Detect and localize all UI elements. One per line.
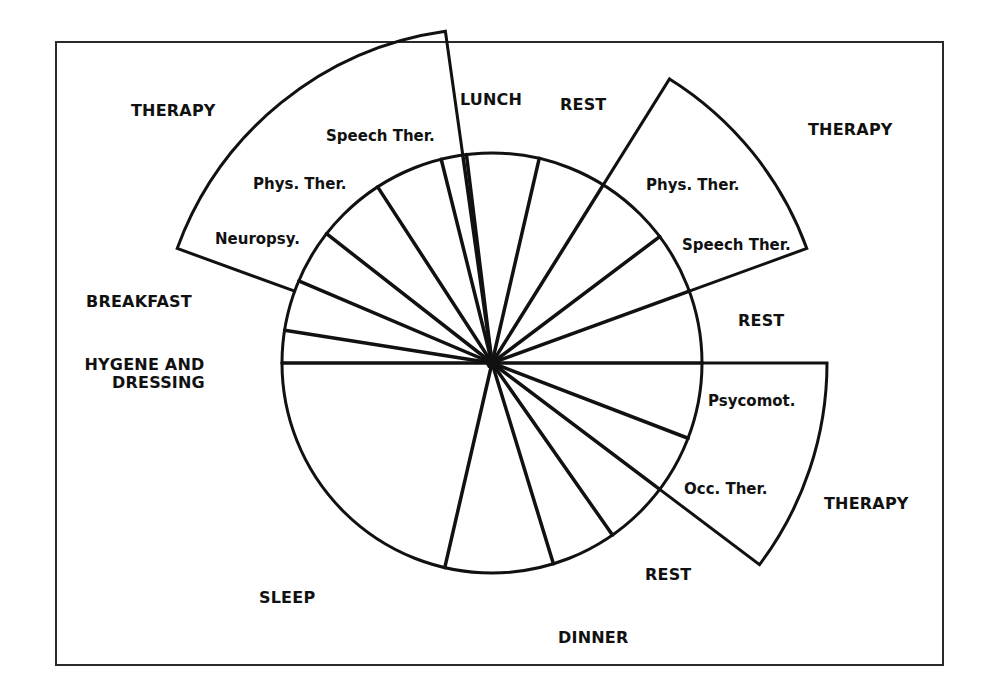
center-hub	[486, 357, 498, 369]
spoke-line	[492, 291, 689, 363]
spoke-line	[492, 363, 688, 438]
label-therapy-right: THERAPY	[808, 121, 893, 139]
label-therapy-left: THERAPY	[131, 102, 216, 120]
spoke-line	[299, 281, 492, 363]
spoke-line	[492, 363, 553, 564]
therapy-lower-psycomot: Psycomot.	[708, 393, 795, 410]
therapy-right-phys: Phys. Ther.	[646, 177, 739, 194]
therapy-lower-occ: Occ. Ther.	[684, 481, 768, 498]
label-rest-bottom: REST	[645, 566, 692, 584]
therapy-left-speech: Speech Ther.	[326, 128, 435, 145]
spoke-line	[492, 185, 603, 363]
label-hygiene-line1: HYGENE AND	[84, 356, 205, 374]
label-therapy-lower: THERAPY	[824, 495, 909, 513]
spoke-line	[492, 363, 660, 489]
label-rest-right: REST	[738, 312, 785, 330]
label-rest-top: REST	[560, 96, 607, 114]
therapy-left-neuropsy: Neuropsy.	[215, 231, 300, 248]
label-hygiene-dressing: HYGENE AND DRESSING	[84, 356, 205, 393]
therapy-right-speech: Speech Ther.	[682, 237, 791, 254]
spoke-line	[327, 234, 492, 363]
spoke-line	[285, 330, 492, 363]
label-breakfast: BREAKFAST	[86, 293, 192, 311]
therapy-left-phys: Phys. Ther.	[253, 176, 346, 193]
label-dinner: DINNER	[558, 629, 628, 647]
label-lunch: LUNCH	[460, 91, 522, 109]
label-sleep: SLEEP	[259, 589, 315, 607]
label-hygiene-line2: DRESSING	[84, 374, 205, 392]
spoke-line	[492, 363, 612, 535]
spoke-line	[445, 363, 492, 568]
